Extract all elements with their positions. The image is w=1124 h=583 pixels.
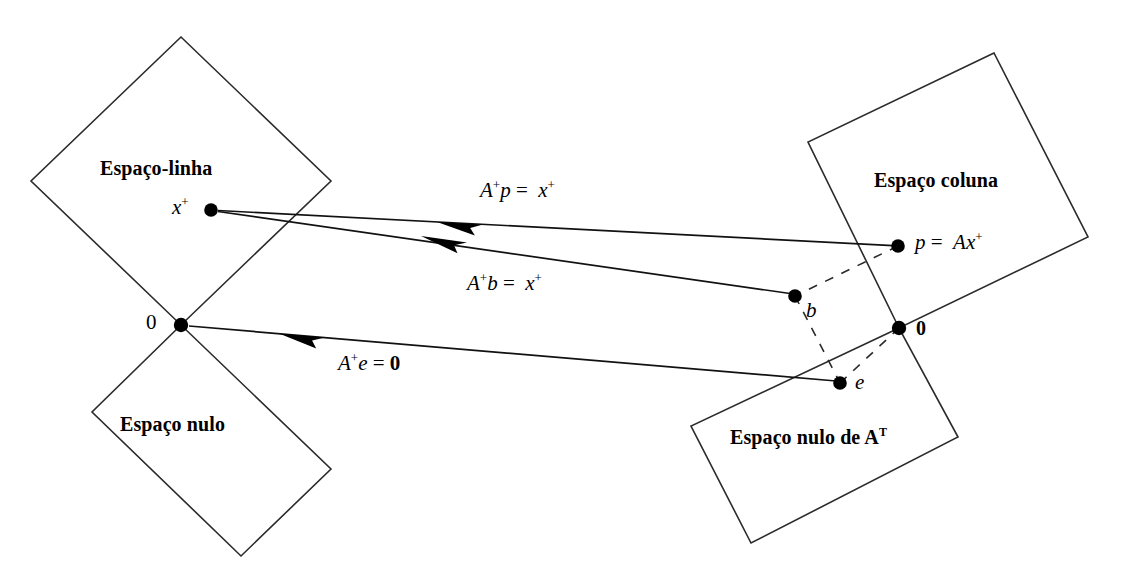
eq-Ap-A: A [480,178,493,202]
arrow-A-plus-p [218,211,893,246]
origin-right-label: 0 [916,318,926,338]
point-b [788,289,802,303]
diagram-svg [0,0,1124,583]
eq-Ab-x-sup: + [535,270,542,285]
p-symbol: p [915,230,926,254]
x-plus-base: x [172,195,181,219]
arrowhead-A-plus-b [421,236,467,253]
p-equals-Ax-plus-label: p = Ax+ [915,232,983,253]
x-plus-label: x+ [172,197,189,218]
eq-Ap-equals: = [511,178,539,202]
x-plus-sup: + [181,194,188,209]
Ax-plus-sup: + [975,229,982,244]
point-origin-left [174,318,188,332]
eq-Ae-A: A [338,351,351,375]
dashed-e-to-origin [840,328,899,383]
eq-Ab-b: b [487,271,498,295]
eq-Ab-equals: = [498,271,526,295]
left-null-space-label-base: Espaço nulo de A [730,426,879,448]
eq-Ab-A: A [467,271,480,295]
figure-canvas: Espaço-linha Espaço nulo Espaço coluna E… [0,0,1124,583]
origin-left-label: 0 [146,312,157,333]
arrowhead-A-plus-e [279,334,325,349]
point-x-plus [204,203,218,217]
left-null-space-transpose-sup: T [879,425,887,439]
e-label: e [855,372,864,393]
row-space-label: Espaço-linha [100,158,212,178]
point-origin-right [892,321,906,335]
column-space-label: Espaço coluna [874,170,998,190]
eq-Ae-zero: 0 [390,351,401,375]
row-space-outline [31,37,331,325]
eq-Ap-p: p [500,178,511,202]
null-space-label: Espaço nulo [120,414,225,434]
b-label: b [806,300,817,321]
Ax-symbol: Ax [953,230,975,254]
dashed-b-to-e [795,296,840,383]
eq-Ap-x-sup: + [548,177,555,192]
p-equals-sign: = [926,230,954,254]
point-p [891,239,905,253]
dashed-p-to-b [795,246,898,296]
point-e [833,376,847,390]
null-space-outline [92,325,331,556]
eq-Ae-equals: = [368,351,390,375]
eq-Ap-x: x [538,178,547,202]
left-null-space-label: Espaço nulo de AT [730,427,887,447]
eq-Ae-e: e [358,351,367,375]
equation-A-plus-e: A+e = 0 [338,353,400,374]
equation-A-plus-b: A+b = x+ [467,273,542,294]
eq-Ab-x: x [525,271,534,295]
equation-A-plus-p: A+p = x+ [480,180,555,201]
arrowhead-A-plus-p [437,222,483,236]
